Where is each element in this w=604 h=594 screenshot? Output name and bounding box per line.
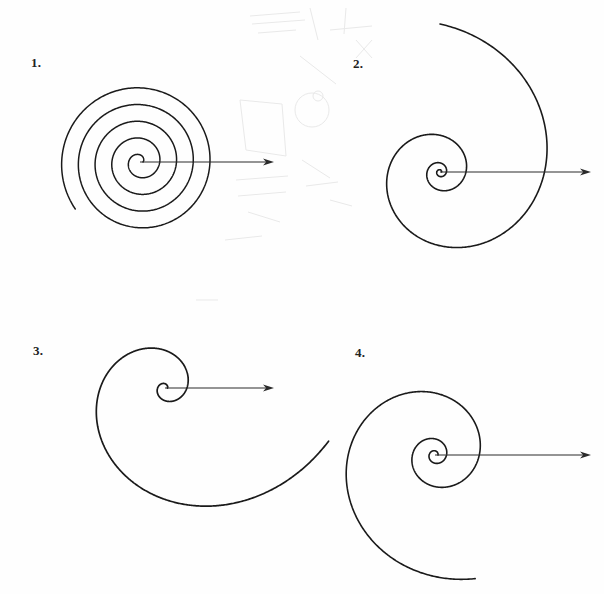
panel-label-3: 3.: [33, 344, 43, 357]
spiral-figures-svg: [0, 0, 604, 594]
spiral-panel-4: [346, 392, 591, 580]
panel-label-2: 2.: [353, 57, 363, 70]
spiral-curve-4: [346, 392, 480, 580]
panel-label-4: 4.: [355, 346, 365, 359]
spiral-curve-2: [387, 24, 547, 248]
panel-label-1: 1.: [31, 56, 41, 69]
spiral-panel-1: [62, 88, 274, 228]
spiral-curve-3: [96, 348, 328, 506]
spiral-panel-3: [96, 348, 328, 506]
spiral-panel-2: [387, 24, 591, 248]
worksheet-page: 1. 2. 3. 4.: [0, 0, 604, 594]
spiral-curve-1: [62, 88, 210, 228]
